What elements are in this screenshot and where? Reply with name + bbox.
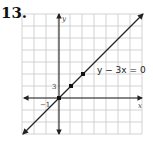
data-point — [69, 84, 73, 88]
y-axis-label: y — [61, 15, 67, 23]
data-point — [57, 96, 61, 100]
y-tick-label: 3 — [52, 83, 56, 91]
x-tick-label: −1 — [40, 101, 50, 109]
equation-label: y − 3x = 0 — [97, 65, 146, 75]
x-axis-label: x — [138, 102, 142, 110]
data-point — [81, 72, 85, 76]
coordinate-graph: y x 3 −1 y − 3x = 0 — [0, 0, 153, 142]
